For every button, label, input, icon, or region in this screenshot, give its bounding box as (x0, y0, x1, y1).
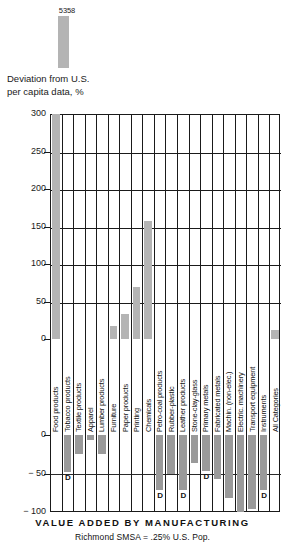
bar-tobacco-products (64, 435, 72, 472)
label-cell-fabricated-metals: Fabricated metals (213, 339, 225, 435)
upper-cell-instruments (259, 115, 271, 339)
category-label-petro-coal-products: Petro-coal products (155, 340, 166, 432)
lower-cell-lumber-products (97, 435, 109, 511)
category-label-text: Petro-coal products (155, 371, 164, 432)
lower-columns: DDDDD (51, 435, 281, 511)
lower-cell-chemicals (143, 435, 155, 511)
disclosure-marker-petro-coal-products: D (155, 491, 166, 500)
upper-cell-rubber-plastic (166, 115, 178, 339)
upper-cell-paper-products (120, 115, 132, 339)
lower-cell-electric-machinery (236, 435, 248, 511)
disclosure-marker-leather-products: D (178, 491, 189, 500)
category-label-text: Textile products (75, 383, 84, 432)
lower-cell-machin-non-elec (224, 435, 236, 511)
ytick-50: 50 (2, 296, 46, 306)
chart-footer: VALUE ADDED BY MANUFACTURING Richmond SM… (0, 517, 285, 542)
category-label-rubber-plastic: Rubber-plastic (166, 340, 177, 432)
disclosure-marker-primary-metals: D (201, 472, 212, 481)
bar-stone-clay-glass (191, 435, 199, 463)
bar-apparel (87, 435, 95, 440)
upper-cell-food-products (51, 115, 63, 339)
bar-instruments (260, 435, 268, 490)
upper-cell-furniture (109, 115, 121, 339)
lower-cell-primary-metals: D (201, 435, 213, 511)
lower-cell-stone-clay-glass (190, 435, 202, 511)
category-label-text: Primary metals (202, 385, 211, 432)
bar-printing (133, 287, 141, 340)
category-label-text: Printing (132, 408, 141, 432)
category-label-text: Apparel (86, 408, 95, 432)
bar-lumber-products (98, 435, 106, 454)
lower-cell-transport-equipment (247, 435, 259, 511)
category-label-text: Chemicals (144, 399, 153, 432)
label-cell-leather-products: Leather products (178, 339, 190, 435)
category-label-stone-clay-glass: Stone-clay-glass (190, 340, 201, 432)
label-cell-petro-coal-products: Petro-coal products (155, 339, 167, 435)
lower-panel: DDDDD (50, 435, 280, 512)
category-label-text: Electric. machinery (236, 372, 245, 432)
label-cell-tobacco-products: Tobacco products (63, 339, 75, 435)
label-cell-furniture: Furniture (109, 339, 121, 435)
category-label-transport-equipment: Transport equipment (247, 340, 258, 432)
bar-all-categories (271, 330, 279, 339)
bar-transport-equipment (248, 435, 256, 509)
category-label-lumber-products: Lumber products (97, 340, 108, 432)
category-label-leather-products: Leather products (178, 340, 189, 432)
label-cell-paper-products: Paper products (120, 339, 132, 435)
bar-furniture (110, 326, 118, 339)
bar-fabricated-metals (214, 435, 222, 479)
category-label-electric-machinery: Electric. machinery (236, 340, 247, 432)
upper-cell-printing (132, 115, 144, 339)
category-label-fabricated-metals: Fabricated metals (213, 340, 224, 432)
category-label-text: All Categories (271, 388, 280, 432)
ytick-100: 100 (2, 258, 46, 268)
ytick-0-upper: 0 (2, 333, 46, 343)
category-label-text: Food products (51, 387, 60, 432)
label-cell-all-categories: All Categories (270, 339, 281, 435)
category-label-textile-products: Textile products (74, 340, 85, 432)
label-cell-machin-non-elec: Machin. (non-elec.) (224, 339, 236, 435)
bar-leather-products (179, 435, 187, 490)
ytick-minus-50: − 50 (2, 468, 46, 478)
upper-panel (50, 114, 280, 339)
label-cell-food-products: Food products (51, 339, 63, 435)
category-label-text: Instruments (259, 395, 268, 432)
upper-cell-stone-clay-glass (190, 115, 202, 339)
bar-rubber-plastic (167, 435, 175, 474)
ytick-150: 150 (2, 221, 46, 231)
upper-cell-lumber-products (97, 115, 109, 339)
overflow-value-label: 5358 (50, 6, 84, 15)
chart-title: VALUE ADDED BY MANUFACTURING (0, 517, 285, 528)
bar-textile-products (75, 435, 83, 454)
bar-paper-products (121, 314, 129, 339)
upper-cell-electric-machinery (236, 115, 248, 339)
bar-food-products (52, 114, 60, 339)
label-cell-printing: Printing (132, 339, 144, 435)
category-label-tobacco-products: Tobacco products (63, 340, 74, 432)
upper-cell-transport-equipment (247, 115, 259, 339)
lower-cell-apparel (86, 435, 98, 511)
category-label-text: Paper products (121, 384, 130, 432)
label-cell-textile-products: Textile products (74, 339, 86, 435)
ytick-300: 300 (2, 108, 46, 118)
label-cell-electric-machinery: Electric. machinery (236, 339, 248, 435)
category-label-text: Rubber-plastic (167, 386, 176, 432)
label-cell-stone-clay-glass: Stone-clay-glass (190, 339, 202, 435)
bar-chemicals (144, 221, 152, 339)
label-columns: Food productsTobacco productsTextile pro… (51, 339, 281, 435)
category-label-machin-non-elec: Machin. (non-elec.) (224, 340, 235, 432)
category-label-text: Lumber products (98, 379, 107, 432)
category-label-text: Leather products (178, 379, 187, 432)
upper-columns (51, 115, 281, 339)
overflow-bar-food-products (58, 16, 69, 68)
upper-cell-all-categories (270, 115, 281, 339)
upper-cell-chemicals (143, 115, 155, 339)
label-cell-rubber-plastic: Rubber-plastic (166, 339, 178, 435)
chart-subtitle: Richmond SMSA = .25% U.S. Pop. (0, 532, 285, 542)
category-label-chemicals: Chemicals (143, 340, 154, 432)
upper-cell-tobacco-products (63, 115, 75, 339)
upper-cell-machin-non-elec (224, 115, 236, 339)
plot-area: Food productsTobacco productsTextile pro… (50, 114, 280, 512)
category-label-furniture: Furniture (109, 340, 120, 432)
lower-cell-rubber-plastic (166, 435, 178, 511)
